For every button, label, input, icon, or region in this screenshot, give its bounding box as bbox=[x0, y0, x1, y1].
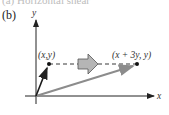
point-original bbox=[47, 62, 51, 66]
shear-diagram: x y (x,y) (x + 3y, y) bbox=[0, 0, 169, 115]
original-vector bbox=[36, 68, 47, 96]
point-original-label: (x,y) bbox=[38, 50, 55, 61]
point-image bbox=[135, 62, 139, 66]
transform-arrow-icon bbox=[78, 54, 98, 74]
image-vector bbox=[36, 66, 133, 96]
x-axis-label: x bbox=[156, 91, 162, 101]
point-image-label: (x + 3y, y) bbox=[112, 50, 151, 61]
y-axis-label: y bbox=[31, 8, 37, 18]
